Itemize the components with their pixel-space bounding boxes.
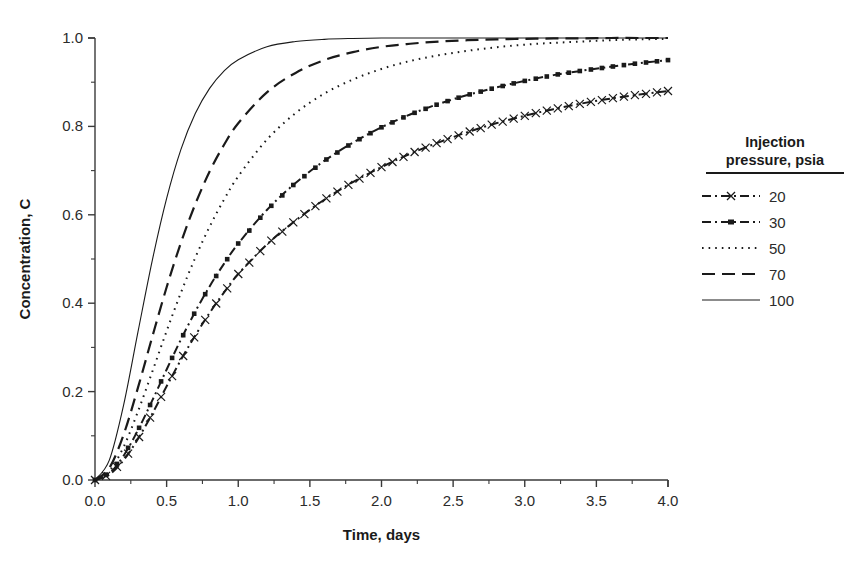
- series-marker-30: [666, 58, 671, 63]
- series-marker-30: [258, 215, 263, 220]
- series-marker-20: [433, 139, 441, 147]
- series-marker-20: [444, 135, 452, 143]
- series-marker-20: [201, 316, 209, 324]
- series-line-70: [95, 38, 668, 480]
- series-marker-20: [234, 270, 242, 278]
- series-marker-30: [478, 89, 483, 94]
- series-marker-30: [137, 426, 142, 431]
- x-tick-label: 3.5: [586, 492, 607, 509]
- series-marker-20: [378, 163, 386, 171]
- y-tick-label: 0.2: [62, 383, 83, 400]
- series-marker-30: [390, 120, 395, 125]
- legend-entry-70: 70: [700, 261, 850, 287]
- series-marker-30: [445, 99, 450, 104]
- legend-entries: 20305070100: [700, 183, 850, 313]
- series-marker-30: [644, 60, 649, 65]
- series-marker-30: [379, 125, 384, 130]
- legend-swatch-20: [700, 189, 762, 203]
- x-tick-label: 2.5: [443, 492, 464, 509]
- legend-title-underline: [706, 172, 844, 174]
- series-marker-30: [280, 193, 285, 198]
- series-marker-30: [203, 292, 208, 297]
- series-marker-30: [655, 59, 660, 64]
- series-marker-30: [589, 67, 594, 72]
- series-line-100: [95, 38, 668, 480]
- legend-label-20: 20: [762, 188, 786, 205]
- legend-entry-100: 100: [700, 287, 850, 313]
- series-marker-30: [291, 183, 296, 188]
- series-marker-30: [192, 311, 197, 316]
- series-marker-30: [357, 137, 362, 142]
- series-marker-30: [412, 111, 417, 116]
- series-50: [95, 39, 668, 480]
- series-marker-30: [423, 107, 428, 112]
- legend-entry-50: 50: [700, 235, 850, 261]
- series-marker-30: [434, 102, 439, 107]
- series-marker-20: [190, 333, 198, 341]
- series-marker-20: [245, 259, 253, 267]
- x-tick-label: 3.0: [514, 492, 535, 509]
- series-marker-20: [289, 218, 297, 226]
- series-marker-20: [267, 237, 275, 245]
- series-marker-30: [511, 81, 516, 86]
- series-marker-30: [456, 95, 461, 100]
- y-tick-label: 0.0: [62, 471, 83, 488]
- series-marker-30: [181, 333, 186, 338]
- x-tick-label: 1.0: [228, 492, 249, 509]
- series-marker-20: [300, 210, 308, 218]
- series-marker-30: [567, 70, 572, 75]
- legend-label-70: 70: [762, 266, 786, 283]
- series-marker-20: [554, 104, 562, 112]
- series-marker-30: [335, 150, 340, 155]
- series-line-30: [95, 60, 668, 480]
- legend-swatch-70: [700, 267, 762, 281]
- series-marker-30: [578, 69, 583, 74]
- series-marker-30: [324, 157, 329, 162]
- series-marker-30: [126, 446, 131, 451]
- chart-figure: 0.00.51.01.52.02.53.03.54.00.00.20.40.60…: [0, 0, 854, 567]
- series-marker-20: [344, 181, 352, 189]
- series-marker-30: [467, 92, 472, 97]
- series-marker-20: [223, 284, 231, 292]
- series-marker-30: [545, 74, 550, 79]
- series-marker-30: [236, 241, 241, 246]
- y-tick-label: 0.4: [62, 294, 83, 311]
- series-20: [91, 87, 672, 484]
- series-marker-30: [170, 356, 175, 361]
- series-marker-30: [556, 72, 561, 77]
- series-marker-30: [600, 66, 605, 71]
- series-marker-30: [159, 379, 164, 384]
- series-marker-30: [633, 61, 638, 66]
- series-marker-20: [157, 393, 165, 401]
- y-tick-label: 0.6: [62, 206, 83, 223]
- y-tick-label: 1.0: [62, 29, 83, 46]
- series-marker-30: [500, 84, 505, 89]
- series-marker-30: [489, 86, 494, 91]
- y-tick-label: 0.8: [62, 117, 83, 134]
- x-tick-label: 2.0: [371, 492, 392, 509]
- legend-entry-20: 20: [700, 183, 850, 209]
- y-axis-title: Concentration, C: [16, 198, 33, 319]
- series-marker-20: [322, 194, 330, 202]
- series-marker-30: [534, 76, 539, 81]
- series-70: [95, 38, 668, 480]
- series-marker-20: [278, 228, 286, 236]
- series-marker-20: [179, 352, 187, 360]
- series-100: [95, 38, 668, 480]
- series-marker-20: [631, 91, 639, 99]
- x-tick-label: 0.0: [85, 492, 106, 509]
- series-marker-30: [313, 165, 318, 170]
- legend-label-50: 50: [762, 240, 786, 257]
- series-marker-30: [346, 143, 351, 148]
- legend-entry-30: 30: [700, 209, 850, 235]
- series-marker-30: [622, 63, 627, 68]
- series-marker-20: [367, 169, 375, 177]
- series-marker-30: [523, 79, 528, 84]
- legend-swatch-30: [700, 215, 762, 229]
- series-marker-30: [401, 115, 406, 120]
- series-marker-20: [411, 148, 419, 156]
- series-line-50: [95, 39, 668, 480]
- series-marker-30: [302, 174, 307, 179]
- x-tick-label: 1.5: [299, 492, 320, 509]
- series-marker-30: [214, 274, 219, 279]
